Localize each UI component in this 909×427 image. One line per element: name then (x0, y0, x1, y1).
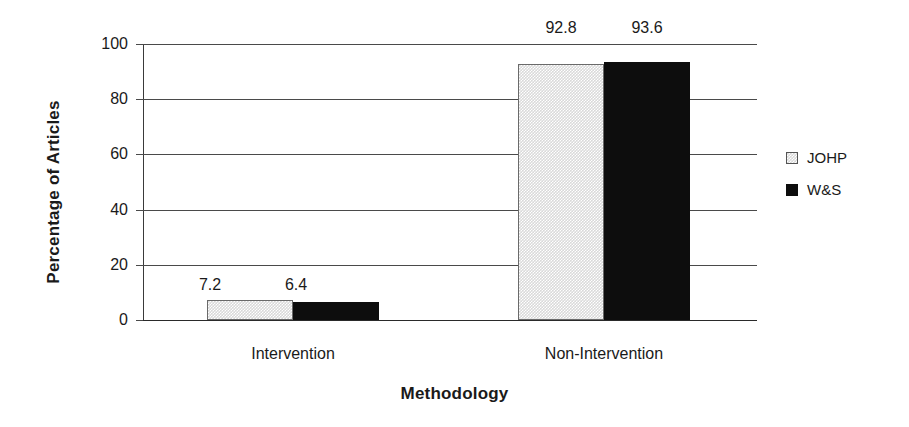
x-axis-title: Methodology (0, 384, 909, 404)
data-label-intervention-johp: 7.2 (167, 277, 253, 293)
y-axis-title: Percentage of Articles (44, 42, 64, 342)
bar-intervention-johp[interactable] (207, 300, 293, 320)
y-tick-mark-20 (136, 265, 143, 266)
legend-item-ws[interactable]: W&S (786, 182, 847, 197)
gridline-baseline-0 (143, 320, 757, 321)
bar-chart-figure: Percentage of Articles 100 80 60 40 20 0… (0, 0, 909, 427)
gridline-100 (143, 44, 757, 45)
legend-label-johp: JOHP (807, 150, 847, 165)
y-tick-label-0: 0 (68, 312, 128, 328)
data-label-non-intervention-ws: 93.6 (604, 20, 690, 36)
x-category-label-non-intervention: Non-Intervention (518, 345, 690, 363)
y-tick-mark-60 (136, 154, 143, 155)
y-tick-label-60: 60 (68, 146, 128, 162)
legend-label-ws: W&S (807, 182, 841, 197)
legend-swatch-ws-icon (786, 184, 798, 196)
bar-intervention-ws[interactable] (293, 302, 379, 320)
y-tick-mark-80 (136, 99, 143, 100)
bar-non-intervention-johp[interactable] (518, 64, 604, 320)
y-tick-label-100: 100 (68, 36, 128, 52)
data-label-non-intervention-johp: 92.8 (518, 20, 604, 36)
bar-non-intervention-ws[interactable] (604, 62, 690, 320)
y-tick-mark-0 (136, 320, 143, 321)
y-tick-label-20: 20 (68, 257, 128, 273)
x-category-label-intervention: Intervention (207, 345, 379, 363)
legend-swatch-johp-icon (786, 152, 798, 164)
legend: JOHP W&S (786, 150, 847, 214)
y-tick-mark-40 (136, 210, 143, 211)
y-tick-label-40: 40 (68, 202, 128, 218)
y-tick-label-80: 80 (68, 91, 128, 107)
y-tick-mark-100 (136, 44, 143, 45)
legend-item-johp[interactable]: JOHP (786, 150, 847, 165)
data-label-intervention-ws: 6.4 (253, 277, 339, 293)
